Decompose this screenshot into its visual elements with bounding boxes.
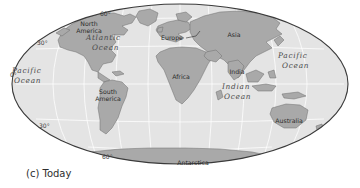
world-map: Pacific Ocean Atlantic Ocean Indian Ocea… [0, 0, 360, 168]
latitude-label-30-south: 30° [39, 122, 50, 129]
continent-label-australia: Australia [275, 117, 303, 124]
continent-label-africa: Africa [172, 73, 190, 80]
figure-panel: Pacific Ocean Atlantic Ocean Indian Ocea… [0, 0, 360, 188]
ocean-label-indian-line1: Indian [221, 82, 250, 91]
ocean-label-atlantic-line1: Atlantic [85, 33, 121, 42]
ocean-label-pacific-east-line1: Pacific [277, 51, 308, 60]
continent-label-north-america-line1: North [80, 20, 97, 27]
latitude-label-0-equator: 0° [10, 71, 17, 78]
ocean-label-pacific-east-line2: Ocean [282, 61, 309, 70]
latitude-label-30-north: 30° [37, 39, 48, 46]
ocean-label-indian-line2: Ocean [224, 92, 251, 101]
continent-label-south-america-line2: America [95, 95, 121, 102]
latitude-label-60-south: 60° [102, 153, 113, 160]
ocean-label-atlantic-line2: Ocean [92, 43, 119, 52]
continent-label-asia: Asia [228, 31, 241, 38]
continent-label-india: India [229, 68, 244, 75]
continent-label-north-america-line2: America [76, 27, 102, 34]
continent-label-south-america-line1: South [99, 88, 117, 95]
latitude-label-60-north: 60° [100, 10, 111, 17]
figure-caption: (c) Today [26, 168, 71, 179]
continent-label-antarctica: Antarctica [177, 159, 209, 166]
ocean-label-pacific-west-line2: Ocean [14, 76, 41, 85]
map-svg: Pacific Ocean Atlantic Ocean Indian Ocea… [0, 0, 360, 168]
continent-label-europe: Europe [161, 34, 183, 42]
